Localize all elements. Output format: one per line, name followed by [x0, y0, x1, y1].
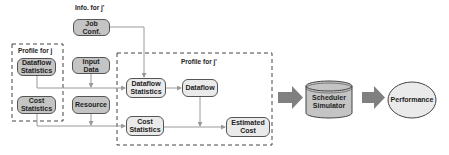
scheduler-simulator-label: Scheduler Simulator [306, 92, 352, 112]
profile-for-jprime-caption: Profile for j' [181, 58, 217, 65]
dataflow-node: Dataflow [182, 79, 218, 97]
cost-statistics-jprime-node: Cost Statistics [126, 116, 164, 136]
performance-label: Performance [388, 92, 436, 108]
block-arrow-to-simulator [278, 86, 303, 109]
info-for-jprime-caption: Info. for j' [75, 4, 104, 11]
connector-dfstats-j-to-dfstats-jprime [37, 76, 125, 88]
diagram-canvas [0, 0, 449, 155]
block-arrow-to-performance [362, 86, 385, 109]
resource-node: Resource [72, 96, 110, 114]
estimated-cost-node: Estimated Cost [226, 117, 270, 137]
dataflow-statistics-jprime-node: Dataflow Statistics [126, 78, 166, 98]
cost-statistics-j-node: Cost Statistics [17, 96, 56, 114]
input-data-node: Input Data [72, 57, 110, 74]
job-conf-node: Job Conf. [73, 19, 110, 36]
connector-coststats-j-to-coststats-jprime [37, 114, 125, 126]
profile-for-j-caption: Profile for j [18, 47, 52, 54]
connector-jobconf-to-dfstats [110, 27, 144, 77]
dataflow-statistics-j-node: Dataflow Statistics [17, 58, 56, 76]
